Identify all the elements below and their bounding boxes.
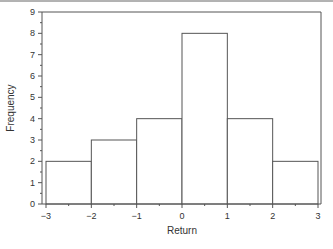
- histogram-bar: [182, 33, 227, 204]
- x-tick-label: 1: [225, 211, 230, 221]
- y-tick-label: 4: [30, 114, 35, 124]
- histogram-bar: [137, 119, 182, 204]
- x-tick-label: 0: [179, 211, 184, 221]
- x-tick-label: −2: [86, 211, 96, 221]
- x-tick-label: −1: [132, 211, 142, 221]
- histogram-chart: 0123456789 −3−2−10123 Frequency Return: [0, 0, 333, 249]
- x-axis: −3−2−10123: [41, 204, 321, 221]
- y-tick-label: 6: [30, 71, 35, 81]
- y-axis: 0123456789: [30, 7, 42, 209]
- y-tick-label: 3: [30, 135, 35, 145]
- histogram-bar: [227, 119, 272, 204]
- y-tick-label: 5: [30, 92, 35, 102]
- y-tick-label: 8: [30, 28, 35, 38]
- x-axis-title: Return: [167, 225, 197, 236]
- histogram-bar: [46, 161, 91, 204]
- x-tick-label: 2: [270, 211, 275, 221]
- x-tick-label: 3: [315, 211, 320, 221]
- histogram-bar: [91, 140, 136, 204]
- x-tick-label: −3: [41, 211, 51, 221]
- y-tick-label: 9: [30, 7, 35, 17]
- y-axis-title: Frequency: [5, 84, 16, 131]
- histogram-bar: [273, 161, 318, 204]
- y-tick-label: 7: [30, 50, 35, 60]
- plot-area: [42, 12, 321, 204]
- y-tick-label: 1: [30, 178, 35, 188]
- y-tick-label: 2: [30, 156, 35, 166]
- y-tick-label: 0: [30, 199, 35, 209]
